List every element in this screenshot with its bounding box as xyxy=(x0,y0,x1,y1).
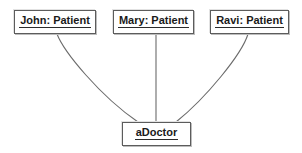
link-john-to-adoctor xyxy=(57,34,138,122)
link-ravi-to-adoctor xyxy=(176,34,248,122)
object-node-john[interactable]: John: Patient xyxy=(14,10,96,34)
object-node-john-label: John: Patient xyxy=(19,14,91,28)
uml-object-diagram: John: Patient Mary: Patient Ravi: Patien… xyxy=(0,0,302,153)
object-node-adoctor[interactable]: aDoctor xyxy=(122,122,191,146)
object-node-ravi[interactable]: Ravi: Patient xyxy=(210,10,289,34)
object-node-mary-label: Mary: Patient xyxy=(118,14,189,28)
object-node-ravi-label: Ravi: Patient xyxy=(215,14,284,28)
object-node-adoctor-label: aDoctor xyxy=(135,126,179,140)
object-node-mary[interactable]: Mary: Patient xyxy=(113,10,194,34)
